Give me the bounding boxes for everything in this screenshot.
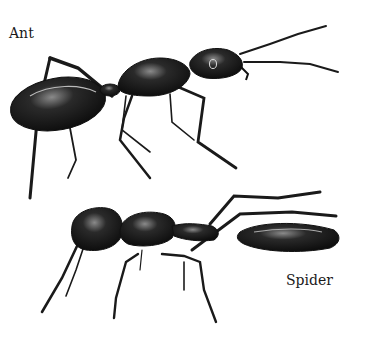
ant-illustration: [0, 0, 368, 350]
spider-label: Spider: [286, 272, 333, 288]
ant-label: Ant: [9, 25, 34, 41]
illustration-canvas: Ant Spider: [0, 0, 368, 350]
